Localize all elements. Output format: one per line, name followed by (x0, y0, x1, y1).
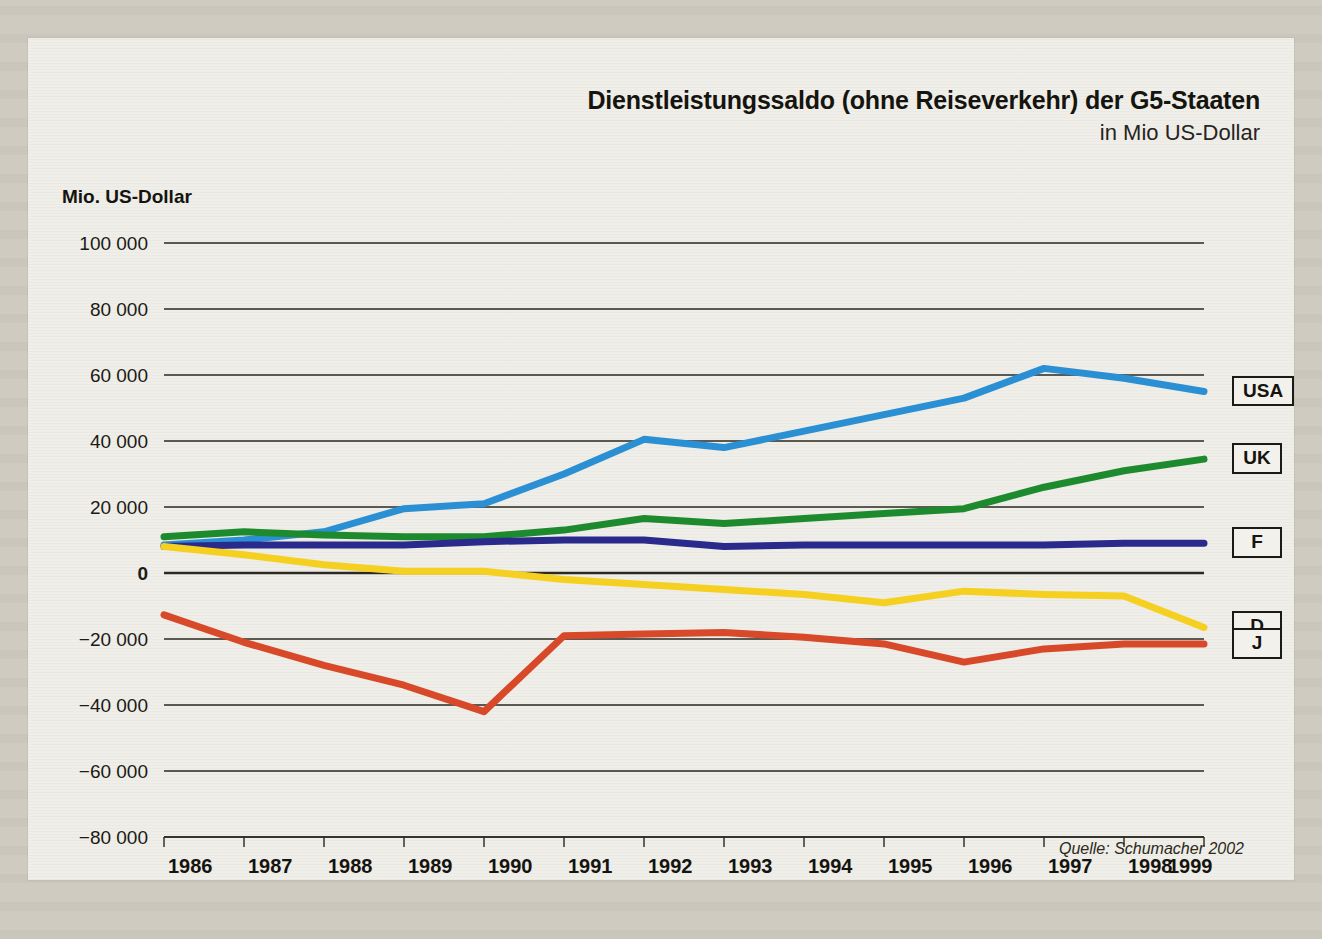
x-axis-group (164, 837, 1204, 847)
legend-item-usa[interactable]: USA (1232, 376, 1294, 407)
x-tick-label: 1991 (568, 855, 613, 877)
y-tick-label: 60 000 (90, 365, 148, 386)
x-tick-label: 1988 (328, 855, 373, 877)
series-line-uk (164, 459, 1204, 537)
x-tick-label: 1995 (888, 855, 933, 877)
legend-item-label: J (1252, 632, 1263, 653)
y-tick-label: −20 000 (79, 629, 148, 650)
x-tick-label-group: 1986198719881989199019911992199319941995… (168, 855, 1213, 877)
y-tick-label: 0 (137, 563, 148, 584)
x-tick-label: 1990 (488, 855, 533, 877)
series-line-d (164, 547, 1204, 628)
legend-item-uk[interactable]: UK (1232, 443, 1282, 474)
y-tick-label: 100 000 (79, 233, 148, 254)
legend-item-label: USA (1243, 380, 1283, 401)
x-tick-label: 1987 (248, 855, 293, 877)
x-tick-label: 1996 (968, 855, 1013, 877)
y-tick-label: 40 000 (90, 431, 148, 452)
y-tick-label: −40 000 (79, 695, 148, 716)
x-tick-label: 1994 (808, 855, 853, 877)
x-tick-label: 1986 (168, 855, 213, 877)
y-tick-label-group: 100 00080 00060 00040 00020 0000−20 000−… (79, 233, 148, 848)
x-tick-label: 1997 (1048, 855, 1093, 877)
x-tick-label: 1998 (1128, 855, 1173, 877)
x-tick-label: 1989 (408, 855, 453, 877)
y-tick-label: −60 000 (79, 761, 148, 782)
source-note: Quelle: Schumacher 2002 (1059, 840, 1244, 858)
x-tick-label: 1992 (648, 855, 693, 877)
legend-item-label: UK (1243, 447, 1270, 468)
line-chart-plot: 100 00080 00060 00040 00020 0000−20 000−… (28, 38, 1294, 880)
y-tick-label: 80 000 (90, 299, 148, 320)
chart-figure: Dienstleistungssaldo (ohne Reiseverkehr)… (28, 38, 1294, 880)
y-tick-label: −80 000 (79, 827, 148, 848)
x-tick-label: 1999 (1168, 855, 1213, 877)
series-line-f (164, 540, 1204, 547)
legend-item-f[interactable]: F (1232, 527, 1282, 558)
y-tick-label: 20 000 (90, 497, 148, 518)
series-line-group (164, 368, 1204, 711)
legend-item-label: F (1251, 531, 1263, 552)
x-tick-label: 1993 (728, 855, 773, 877)
series-line-j (164, 615, 1204, 712)
legend-item-j[interactable]: J (1232, 628, 1282, 659)
